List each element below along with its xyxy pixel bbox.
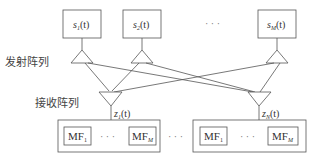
signal-label-s2: s2(t) bbox=[133, 19, 149, 31]
tx-antenna-icon bbox=[71, 50, 93, 63]
tx-antenna-icon bbox=[131, 50, 153, 63]
signal-label-s1: s1(t) bbox=[73, 19, 89, 31]
mimo-diagram: s1(t) s2(t) sM(t) · · · z1(t) zN(t) MF1 … bbox=[0, 0, 312, 162]
rx-label-z1: z1(t) bbox=[113, 108, 130, 120]
mf-ellipsis: · · · bbox=[100, 131, 115, 142]
tx-antenna-icon bbox=[266, 50, 288, 63]
rx-antenna-icon bbox=[248, 92, 271, 106]
signal-label-sM: sM(t) bbox=[267, 19, 285, 31]
rx-label-zN: zN(t) bbox=[261, 108, 279, 120]
rx-antenna-icon bbox=[99, 92, 122, 106]
bank-ellipsis: · · · bbox=[168, 131, 183, 142]
mf-ellipsis: · · · bbox=[240, 131, 255, 142]
tx-ellipsis: · · · bbox=[205, 18, 220, 29]
